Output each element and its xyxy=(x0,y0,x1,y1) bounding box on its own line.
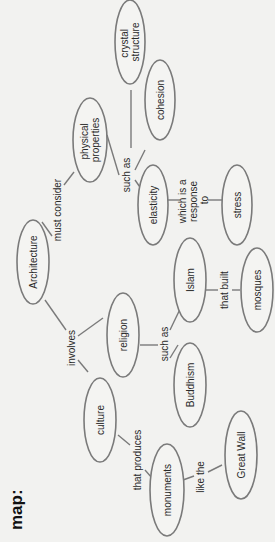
node-label: Islam xyxy=(185,268,196,292)
link-like-the: like the xyxy=(195,461,206,493)
node-label: Architecture xyxy=(28,235,39,289)
node-buddhism: Buddhism xyxy=(174,343,206,427)
node-stress: stress xyxy=(222,165,252,245)
node-mosques: mosques xyxy=(241,248,273,332)
node-islam: Islam xyxy=(174,238,206,322)
edges xyxy=(42,90,240,480)
node-label: Great Wall xyxy=(236,432,247,479)
link-which-is-a-response-to: which is a response to xyxy=(177,177,210,225)
node-cohesion: cohesion xyxy=(145,60,175,140)
node-religion: religion xyxy=(107,293,139,377)
node-great-wall: Great Wall xyxy=(225,411,257,499)
link-must-consider: must consider xyxy=(52,178,63,241)
node-elasticity: elasticity xyxy=(138,165,168,245)
node-label: properties xyxy=(90,118,101,162)
node-label: cohesion xyxy=(155,80,166,120)
node-label: monuments xyxy=(162,464,173,516)
node-label: physical xyxy=(79,123,90,159)
link-involves: involves xyxy=(66,330,77,366)
node-label: culture xyxy=(95,405,106,435)
node-label: elasticity xyxy=(148,186,159,224)
node-label: crystal xyxy=(119,29,130,58)
node-architecture: Architecture xyxy=(17,220,49,304)
node-culture: culture xyxy=(84,378,116,462)
link-that-produces: that produces xyxy=(132,430,143,491)
node-monuments: monuments xyxy=(150,444,184,536)
node-crystal-structure: crystal structure xyxy=(115,0,145,84)
node-label: Buddhism xyxy=(185,363,196,407)
node-label: mosques xyxy=(252,270,263,311)
node-label: religion xyxy=(118,319,129,351)
svg-text:crystal structure: crystal structure xyxy=(119,22,141,61)
node-label: structure xyxy=(130,22,141,61)
node-label: stress xyxy=(232,192,243,219)
link-such-as: such as xyxy=(121,158,132,192)
svg-text:physical properties: physical properties xyxy=(79,118,101,162)
map-title: map: xyxy=(7,489,26,530)
concept-map: crystal structure cohesion physical prop… xyxy=(0,0,275,542)
link-that-built: that built xyxy=(219,271,230,309)
node-physical-properties: physical properties xyxy=(73,98,107,182)
link-such-as: such as xyxy=(159,327,170,361)
